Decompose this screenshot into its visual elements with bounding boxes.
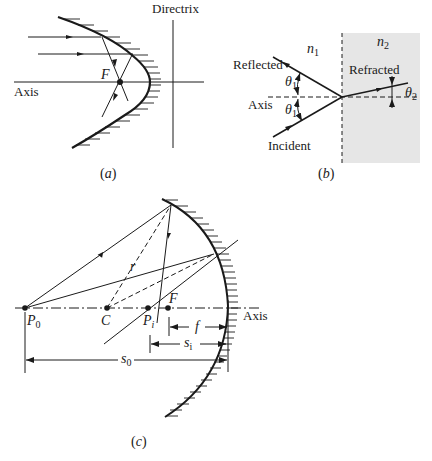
c-label: C <box>101 313 111 328</box>
axis-label: Axis <box>243 308 268 323</box>
axis-label: Axis <box>248 97 273 112</box>
s0-label: s0 <box>121 351 131 368</box>
radius-line-top <box>107 205 171 308</box>
pi-label: Pi <box>142 313 155 330</box>
image-point-pi <box>145 305 151 311</box>
focus-point <box>117 79 123 85</box>
refracted-label: Refracted <box>349 62 400 77</box>
incident-ray <box>273 97 342 137</box>
panel-c-spherical-mirror: P0 C Pi F r Axis f si s0 (c) <box>15 199 268 450</box>
ray-p0-top <box>25 205 171 308</box>
reflected-label: Reflected <box>233 57 283 72</box>
reflected-ray-2 <box>102 55 132 117</box>
radius-label: r <box>130 259 136 274</box>
n1-label: n1 <box>307 41 319 58</box>
incident-label: Incident <box>268 138 311 153</box>
axis-label: Axis <box>14 84 39 99</box>
object-point-p0 <box>22 305 28 311</box>
ray-arrow-icon <box>66 35 73 39</box>
theta1-lower-label: θ1 <box>285 102 297 119</box>
caption-a: (a) <box>100 166 117 182</box>
ray-arrow-icon <box>113 93 118 101</box>
caption-b: (b) <box>318 166 335 182</box>
f-point-label: F <box>168 291 178 306</box>
panel-a-parabolic-mirror: F Axis Directrix (a) <box>14 1 204 182</box>
ray-arrow-icon <box>77 52 84 56</box>
theta1-lower-arc <box>298 99 303 121</box>
optics-figure: F Axis Directrix (a) Reflected Axis Inci… <box>0 0 432 461</box>
theta1-upper-arc <box>297 73 300 95</box>
directrix-label: Directrix <box>152 1 199 16</box>
focal-point-f <box>165 305 171 311</box>
focus-label: F <box>100 67 110 82</box>
p0-label: P0 <box>26 313 41 330</box>
reflected-ray <box>273 57 342 97</box>
panel-b-refraction: Reflected Axis Incident Refracted n1 n2 … <box>233 33 420 182</box>
si-label: si <box>184 335 192 352</box>
caption-c: (c) <box>131 434 147 450</box>
center-point-c <box>104 305 110 311</box>
f-dist-label: f <box>195 319 201 334</box>
ray-arrow-icon <box>167 233 171 239</box>
theta1-upper-label: θ1 <box>285 74 297 91</box>
